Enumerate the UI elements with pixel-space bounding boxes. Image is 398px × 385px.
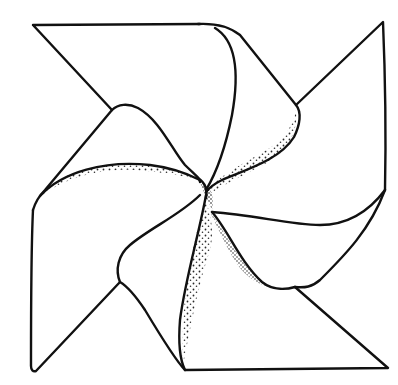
pinwheel-drawing (0, 0, 398, 385)
bottom-right-triangle (185, 287, 388, 370)
right-blade (212, 190, 385, 225)
bottom-left-triangle (31, 210, 120, 371)
stipple-shading (36, 110, 296, 365)
left-blade (33, 105, 200, 210)
top-left-triangle (33, 24, 200, 110)
right-triangle (296, 22, 385, 190)
top-blade-inner-curl (206, 28, 236, 190)
